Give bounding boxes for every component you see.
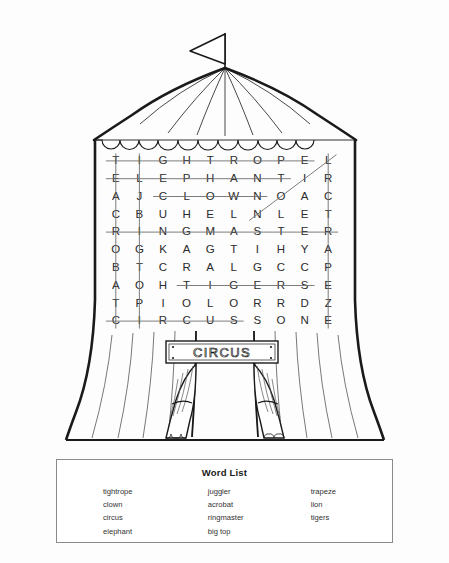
grid-cell[interactable]: G [222, 277, 246, 295]
grid-cell[interactable]: T [269, 170, 293, 188]
grid-cell[interactable]: B [128, 205, 152, 223]
grid-cell[interactable]: R [316, 223, 340, 241]
grid-cell[interactable]: H [151, 277, 175, 295]
word-list-item[interactable]: tightrope [103, 485, 208, 498]
grid-cell[interactable]: T [128, 259, 152, 277]
grid-cell[interactable]: T [316, 205, 340, 223]
grid-cell[interactable]: A [104, 188, 128, 206]
grid-cell[interactable]: C [316, 188, 340, 206]
grid-cell[interactable]: N [246, 188, 270, 206]
grid-cell[interactable]: P [128, 294, 152, 312]
grid-cell[interactable]: E [198, 205, 222, 223]
grid-cell[interactable]: P [175, 170, 199, 188]
grid-cell[interactable]: G [151, 152, 175, 170]
grid-cell[interactable]: E [293, 223, 317, 241]
grid-cell[interactable]: O [222, 294, 246, 312]
grid-cell[interactable]: S [246, 223, 270, 241]
word-list-item[interactable]: circus [103, 511, 208, 524]
grid-cell[interactable]: C [175, 312, 199, 330]
grid-cell[interactable]: E [293, 205, 317, 223]
grid-cell[interactable]: R [175, 259, 199, 277]
grid-cell[interactable]: N [246, 170, 270, 188]
grid-cell[interactable]: G [246, 259, 270, 277]
grid-cell[interactable]: O [175, 294, 199, 312]
grid-cell[interactable]: O [269, 188, 293, 206]
grid-cell[interactable]: T [104, 294, 128, 312]
grid-cell[interactable]: O [246, 152, 270, 170]
grid-cell[interactable]: K [151, 241, 175, 259]
grid-cell[interactable]: S [222, 312, 246, 330]
word-list-item[interactable]: juggler [208, 485, 311, 498]
grid-cell[interactable]: A [222, 223, 246, 241]
grid-cell[interactable]: C [104, 205, 128, 223]
grid-cell[interactable]: A [198, 259, 222, 277]
grid-cell[interactable]: O [104, 241, 128, 259]
grid-cell[interactable]: I [293, 170, 317, 188]
grid-cell[interactable]: L [198, 294, 222, 312]
grid-cell[interactable]: O [269, 312, 293, 330]
grid-cell[interactable]: U [151, 205, 175, 223]
grid-cell[interactable]: S [246, 312, 270, 330]
grid-cell[interactable]: I [246, 241, 270, 259]
grid-cell[interactable]: A [316, 241, 340, 259]
grid-cell[interactable]: I [128, 223, 152, 241]
word-list-item[interactable]: acrobat [208, 498, 311, 511]
grid-cell[interactable]: C [151, 259, 175, 277]
grid-cell[interactable]: A [222, 170, 246, 188]
grid-cell[interactable]: H [175, 205, 199, 223]
grid-cell[interactable]: N [246, 205, 270, 223]
grid-cell[interactable]: J [128, 188, 152, 206]
grid-cell[interactable]: E [104, 170, 128, 188]
grid-cell[interactable]: O [128, 277, 152, 295]
grid-cell[interactable]: L [128, 170, 152, 188]
grid-cell[interactable]: L [222, 205, 246, 223]
grid-cell[interactable]: B [104, 259, 128, 277]
word-list-item[interactable]: big top [208, 525, 311, 538]
word-list-item[interactable]: trapeze [311, 485, 392, 498]
grid-cell[interactable]: I [128, 152, 152, 170]
grid-cell[interactable]: U [198, 312, 222, 330]
grid-cell[interactable]: P [316, 259, 340, 277]
grid-cell[interactable]: Y [293, 241, 317, 259]
grid-cell[interactable]: E [151, 170, 175, 188]
grid-cell[interactable]: R [222, 152, 246, 170]
grid-cell[interactable]: H [269, 241, 293, 259]
grid-cell[interactable]: G [198, 241, 222, 259]
grid-cell[interactable]: R [316, 170, 340, 188]
grid-cell[interactable]: R [246, 294, 270, 312]
grid-cell[interactable]: T [175, 277, 199, 295]
grid-cell[interactable]: A [104, 277, 128, 295]
grid-cell[interactable]: A [175, 241, 199, 259]
grid-cell[interactable]: P [269, 152, 293, 170]
grid-cell[interactable]: S [293, 277, 317, 295]
grid-cell[interactable]: H [198, 170, 222, 188]
grid-cell[interactable]: C [104, 312, 128, 330]
grid-cell[interactable]: R [151, 312, 175, 330]
grid-cell[interactable]: C [293, 259, 317, 277]
word-list-item[interactable]: lion [311, 498, 392, 511]
word-list-item[interactable]: elephant [103, 525, 208, 538]
grid-cell[interactable]: C [151, 188, 175, 206]
grid-cell[interactable]: I [151, 294, 175, 312]
grid-cell[interactable]: T [104, 152, 128, 170]
grid-cell[interactable]: I [198, 277, 222, 295]
grid-cell[interactable]: D [293, 294, 317, 312]
grid-cell[interactable]: T [198, 152, 222, 170]
grid-cell[interactable]: I [128, 312, 152, 330]
grid-cell[interactable]: T [222, 241, 246, 259]
grid-cell[interactable]: E [316, 312, 340, 330]
grid-cell[interactable]: G [128, 241, 152, 259]
grid-cell[interactable]: W [222, 188, 246, 206]
word-list-item[interactable]: ringmaster [208, 511, 311, 524]
grid-cell[interactable]: C [269, 259, 293, 277]
grid-cell[interactable]: G [175, 223, 199, 241]
grid-cell[interactable]: L [175, 188, 199, 206]
grid-cell[interactable]: Z [316, 294, 340, 312]
grid-cell[interactable]: O [198, 188, 222, 206]
grid-cell[interactable]: L [222, 259, 246, 277]
grid-cell[interactable]: A [293, 188, 317, 206]
grid-cell[interactable]: R [104, 223, 128, 241]
grid-cell[interactable]: L [269, 205, 293, 223]
grid-cell[interactable]: T [269, 223, 293, 241]
word-list-item[interactable]: tigers [311, 511, 392, 524]
